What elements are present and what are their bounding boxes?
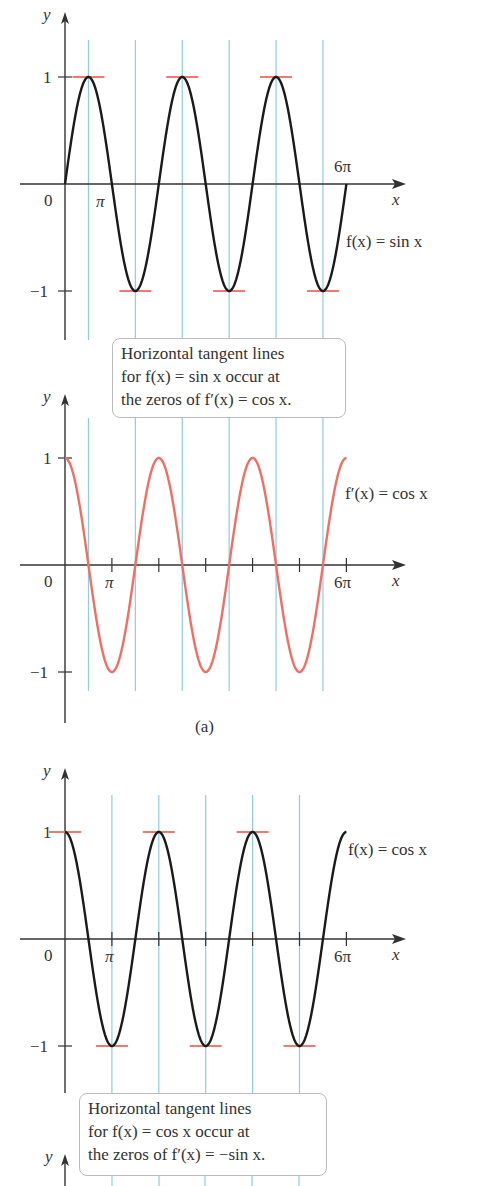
note-line: Horizontal tangent lines [88,1097,318,1120]
six-pi-tick-label: 6π [334,157,352,176]
curve-label: f(x) = sin x [346,232,423,251]
y-tick-label-neg1: −1 [30,663,48,682]
y-tick-label-neg1: −1 [30,1037,48,1056]
y-tick-label-1: 1 [43,68,52,87]
note-line: for f(x) = sin x occur at [121,365,337,388]
note-line: the zeros of f′(x) = −sin x. [88,1143,318,1166]
note-line: the zeros of f′(x) = cos x. [121,388,337,411]
figure-canvas: yx0π6π1−1f(x) = sin xyx0π6π1−1f′(x) = co… [0,0,488,1186]
x-axis-label: x [391,571,400,590]
note-line: Horizontal tangent lines [121,342,337,365]
origin-label: 0 [44,946,53,965]
pi-tick-label: π [105,573,114,592]
x-axis-label: x [391,190,400,209]
note-line: for f(x) = cos x occur at [88,1120,318,1143]
origin-label: 0 [44,191,53,210]
six-pi-tick-label: 6π [334,573,352,592]
origin-label: 0 [44,572,53,591]
pi-tick-label: π [105,947,114,966]
y-axis-label: y [43,1147,53,1166]
y-tick-label-neg1: −1 [30,282,48,301]
pi-tick-label: π [96,192,105,211]
y-tick-label-1: 1 [43,823,52,842]
y-axis-label: y [41,761,51,780]
figure-caption: (a) [195,717,214,737]
x-axis-label: x [391,945,400,964]
annotation-sin-tangents: Horizontal tangent lines for f(x) = sin … [112,338,346,418]
curve-label: f′(x) = cos x [345,484,428,503]
curve-label: f(x) = cos x [348,840,427,859]
y-tick-label-1: 1 [43,449,52,468]
y-axis-label: y [41,5,51,24]
y-axis-label: y [41,387,51,406]
annotation-cos-tangents: Horizontal tangent lines for f(x) = cos … [79,1093,327,1176]
six-pi-tick-label: 6π [334,947,352,966]
